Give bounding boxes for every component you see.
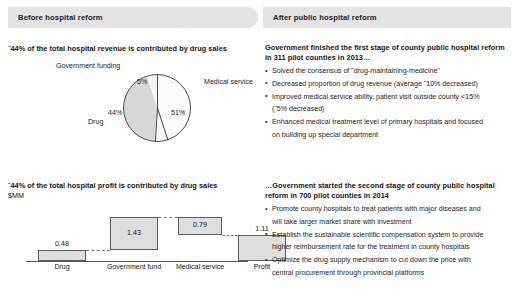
list-item: Enhanced medical treatment level of prim… — [265, 117, 513, 128]
waterfall-value-medical-service: 0.79 — [178, 221, 222, 229]
pie-value-medical: 51% — [171, 109, 185, 117]
pie-value-government: 5% — [137, 78, 147, 86]
waterfall-value-drug: 0.48 — [38, 240, 86, 248]
waterfall-connector-3 — [222, 235, 238, 236]
pie-value-drug: 44% — [108, 109, 122, 117]
list-item: Improved medical service ability, patien… — [265, 92, 513, 103]
slide-root: Before hospital reform After public hosp… — [0, 0, 518, 298]
waterfall-axis-unit: $MM — [8, 191, 24, 200]
pie-label-drug: Drug — [88, 118, 103, 126]
list-item: Promote county hospitals to treat patien… — [265, 204, 513, 215]
waterfall-bar-drug — [38, 250, 86, 261]
list-item-continuation: central procurement through provincial p… — [265, 268, 513, 279]
waterfall-connector-1 — [86, 250, 110, 251]
right-block1-bullet-list: Solved the consensus of "drug-maintainin… — [265, 66, 513, 143]
waterfall-category-drug: Drug — [38, 263, 86, 272]
list-item: Decreased proportion of drug revenue (av… — [265, 79, 513, 90]
waterfall-baseline — [26, 261, 248, 262]
waterfall-category-medical-service: Medical service — [172, 263, 228, 272]
header-banner-before: Before hospital reform — [8, 7, 258, 28]
list-item-continuation: on building up special department — [265, 130, 513, 141]
list-item: Establish the sustainable scientific com… — [265, 230, 513, 241]
header-banner-after: After public hospital reform — [263, 7, 511, 28]
right-block1-title: Government finished the first stage of c… — [265, 43, 513, 62]
pie-graphic — [123, 74, 191, 142]
waterfall-category-government-fund: Government fund — [102, 263, 166, 272]
header-label-after: After public hospital reform — [263, 13, 377, 22]
pie-label-government: Government funding — [56, 62, 120, 70]
pie-separator-3 — [157, 108, 168, 141]
waterfall-value-government-fund: 1.43 — [110, 229, 158, 237]
pie-chart: Government funding Medical service Drug … — [8, 62, 258, 162]
pie-separator-1 — [157, 74, 158, 108]
list-item: Solved the consensus of "drug-maintainin… — [265, 66, 513, 77]
list-item: Optimize the drug supply mechanism to cu… — [265, 255, 513, 266]
pie-label-medical: Medical service — [204, 78, 253, 86]
pie-separator-2 — [155, 108, 158, 142]
list-item-continuation: higher reimbursement rate for the treatm… — [265, 242, 513, 253]
pie-chart-title: ˜44% of the total hospital revenue is co… — [8, 44, 260, 54]
right-block2-title: …Government started the second stage of … — [265, 181, 513, 200]
waterfall-chart: 0.48 Drug 1.43 Government fund 0.79 Medi… — [8, 205, 258, 283]
waterfall-chart-title: ˜44% of the total hospital profit is con… — [8, 181, 260, 191]
list-item-continuation: (˜5% decreased) — [265, 104, 513, 115]
right-block2-bullet-list: Promote county hospitals to treat patien… — [265, 204, 513, 281]
list-item-continuation: will take larger market share with inves… — [265, 217, 513, 228]
header-label-before: Before hospital reform — [8, 13, 103, 22]
waterfall-connector-2 — [158, 217, 178, 218]
